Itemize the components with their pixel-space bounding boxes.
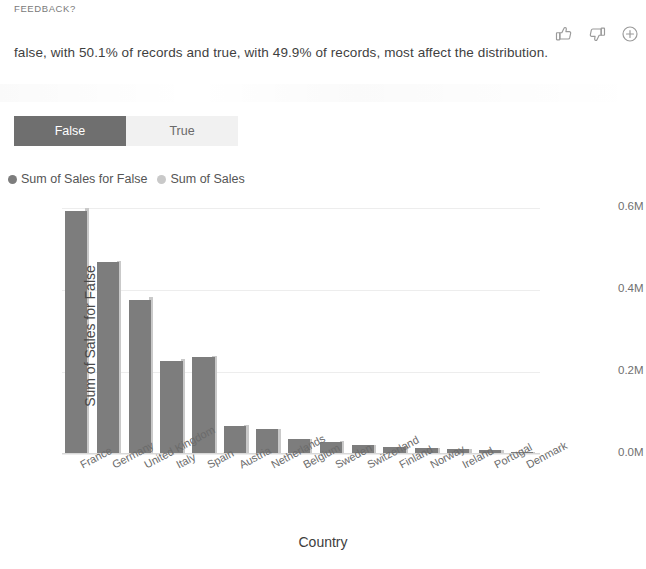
y-axis-right-tick-label: 0.0M	[618, 446, 644, 458]
legend-swatch-series-false	[8, 175, 17, 184]
x-axis-tick-labels: FranceGermanyUnited KingdomItalySpainAus…	[62, 458, 540, 528]
scan-artifact-band	[0, 84, 646, 102]
legend-label-series-false: Sum of Sales for False	[21, 172, 147, 186]
bar-group[interactable]	[508, 208, 540, 454]
legend-item-sum-of-sales-for-false[interactable]: Sum of Sales for False	[8, 172, 147, 186]
x-tick-slot: Sweden	[317, 458, 349, 528]
x-tick-slot: Netherlands	[253, 458, 285, 528]
x-axis-title: Country	[0, 534, 646, 550]
bar-group[interactable]	[253, 208, 285, 454]
bar-group[interactable]	[94, 208, 126, 454]
combo-bar-chart[interactable]: 0.0M0.1M0.2M0.3M 0.0M0.2M0.4M0.6M Sum of…	[0, 196, 646, 536]
legend-item-sum-of-sales[interactable]: Sum of Sales	[157, 172, 244, 186]
bar-group[interactable]	[189, 208, 221, 454]
tab-false[interactable]: False	[14, 116, 126, 146]
x-tick-slot: France	[62, 458, 94, 528]
x-tick-slot: Ireland	[444, 458, 476, 528]
bar-group[interactable]	[221, 208, 253, 454]
thumbs-down-icon[interactable]	[587, 24, 607, 44]
tab-true[interactable]: True	[126, 116, 238, 146]
insight-text: false, with 50.1% of records and true, w…	[14, 44, 634, 62]
y-axis-right-tick-label: 0.2M	[618, 364, 644, 376]
chart-legend: Sum of Sales for False Sum of Sales	[8, 172, 245, 186]
bar-sum-of-sales-for-false[interactable]	[129, 300, 151, 454]
y-axis-right-tick-label: 0.6M	[618, 200, 644, 212]
x-tick-slot: Belgium	[285, 458, 317, 528]
plus-circle-icon[interactable]	[620, 24, 640, 44]
value-tab-group: False True	[14, 116, 238, 146]
legend-swatch-series-total	[157, 175, 166, 184]
thumbs-up-icon[interactable]	[554, 24, 574, 44]
x-tick-slot: Finland	[381, 458, 413, 528]
y-axis-left-title: Sum of Sales for False	[82, 246, 98, 426]
x-tick-slot: United Kingdom	[126, 458, 158, 528]
x-tick-slot: Germany	[94, 458, 126, 528]
x-tick-slot: Portugal	[476, 458, 508, 528]
x-tick-slot: Italy	[158, 458, 190, 528]
bar-group[interactable]	[317, 208, 349, 454]
feedback-icon-group	[554, 24, 640, 44]
feedback-label: FEEDBACK?	[14, 3, 76, 14]
bar-group[interactable]	[126, 208, 158, 454]
bar-group[interactable]	[444, 208, 476, 454]
bar-group[interactable]	[412, 208, 444, 454]
insight-card: FEEDBACK? false, with 50.1% of records a…	[0, 0, 646, 569]
bar-group[interactable]	[381, 208, 413, 454]
plot-area: 0.0M0.1M0.2M0.3M 0.0M0.2M0.4M0.6M Sum of…	[62, 208, 540, 454]
bar-series-container	[62, 208, 540, 454]
bar-sum-of-sales-for-false[interactable]	[97, 262, 119, 454]
legend-label-series-total: Sum of Sales	[170, 172, 244, 186]
x-tick-slot: Denmark	[508, 458, 540, 528]
x-tick-slot: Switzerland	[349, 458, 381, 528]
bar-group[interactable]	[476, 208, 508, 454]
x-tick-slot: Spain	[189, 458, 221, 528]
bar-group[interactable]	[349, 208, 381, 454]
bar-group[interactable]	[285, 208, 317, 454]
x-tick-slot: Austria	[221, 458, 253, 528]
x-tick-slot: Norway	[412, 458, 444, 528]
bar-group[interactable]	[158, 208, 190, 454]
y-axis-right-tick-label: 0.4M	[618, 282, 644, 294]
